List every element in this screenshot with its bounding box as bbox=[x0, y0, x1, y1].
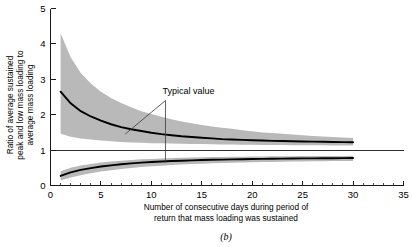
x-axis-title-line2: return that mass loading was sustained bbox=[154, 213, 298, 223]
chart-figure: 05101520253035 012345 Typical value Rati… bbox=[0, 0, 412, 247]
x-axis-title-line1: Number of consecutive days during period… bbox=[144, 202, 309, 212]
y-tick-labels: 012345 bbox=[40, 3, 45, 191]
x-tick-label: 10 bbox=[146, 189, 157, 200]
figure-caption: (b) bbox=[220, 231, 232, 243]
y-tick-label: 0 bbox=[40, 180, 45, 191]
y-tick-label: 3 bbox=[40, 74, 45, 85]
y-axis-title: Ratio of average sustained peak and low … bbox=[5, 50, 35, 160]
y-axis-title-line3: average mass loading bbox=[25, 64, 35, 146]
x-tick-label: 35 bbox=[398, 189, 409, 200]
y-axis-title-line2: peak and low mass loading to bbox=[15, 50, 25, 160]
x-tick-label: 25 bbox=[297, 189, 308, 200]
x-tick-label: 5 bbox=[98, 189, 103, 200]
x-tick-label: 20 bbox=[247, 189, 258, 200]
y-axis-title-line1: Ratio of average sustained bbox=[5, 55, 15, 154]
x-tick-labels: 05101520253035 bbox=[48, 189, 409, 200]
x-axis-title: Number of consecutive days during period… bbox=[144, 202, 309, 223]
x-tick-label: 0 bbox=[48, 189, 53, 200]
x-tick-label: 15 bbox=[196, 189, 207, 200]
annotation-label: Typical value bbox=[162, 86, 214, 96]
chart-canvas: 05101520253035 012345 Typical value Rati… bbox=[0, 0, 412, 247]
y-tick-label: 1 bbox=[40, 145, 45, 156]
y-tick-label: 4 bbox=[40, 38, 45, 49]
y-tick-label: 5 bbox=[40, 3, 45, 14]
y-tick-label: 2 bbox=[40, 109, 45, 120]
x-tick-label: 30 bbox=[348, 189, 359, 200]
